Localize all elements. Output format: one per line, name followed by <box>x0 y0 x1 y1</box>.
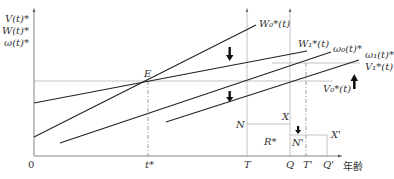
x-axis-title: 年齢 <box>343 160 363 172</box>
v-shift-up-arrow <box>351 74 359 89</box>
tick-t-prime: T' <box>303 159 312 170</box>
origin-label: 0 <box>28 159 34 170</box>
w-shift-down-arrow <box>226 47 233 61</box>
omega1-label: ω₁(t)* <box>365 49 394 60</box>
point-x: X <box>281 111 290 122</box>
point-n: N <box>235 119 246 130</box>
lifecycle-wage-diagram: V(t)* W(t)* ω(t)* W₀*(t) W₁*(t) ω₀(t)* ω… <box>0 0 394 179</box>
point-e: E <box>143 68 152 79</box>
v1-label: V₁*(t) <box>365 61 393 72</box>
point-n-prime: N' <box>291 137 304 148</box>
tick-t: T <box>244 159 252 170</box>
tick-q-prime: Q' <box>323 159 334 170</box>
y-label-omega: ω(t)* <box>4 37 29 48</box>
tick-q: Q <box>286 159 294 170</box>
y-label-w: W(t)* <box>2 25 29 36</box>
point-r-star: R* <box>263 136 277 147</box>
y-label-v: V(t)* <box>5 13 29 24</box>
omega0-label: ω₀(t)* <box>333 43 362 54</box>
point-x-prime: X' <box>330 129 341 140</box>
n-shift-down-arrow <box>295 126 301 134</box>
w1-label: W₁*(t) <box>298 38 329 49</box>
v0-label: V₀*(t) <box>323 83 351 94</box>
w1-curve <box>34 51 307 103</box>
tick-t-star: t* <box>145 159 154 170</box>
w0-label: W₀*(t) <box>259 18 290 29</box>
